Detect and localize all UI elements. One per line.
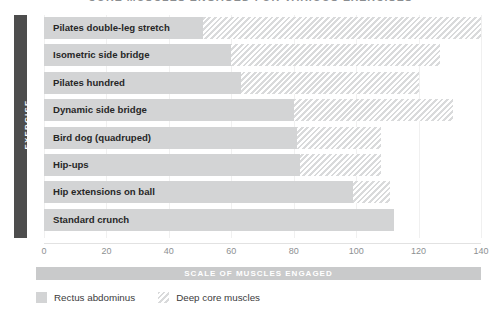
bar-row[interactable]: Standard crunch (44, 209, 481, 231)
bar-category-label: Bird dog (quadruped) (53, 127, 151, 149)
core-muscles-bar-chart: CORE MUSCLES ENGAGED FOR VARIOUS EXERCIS… (0, 0, 501, 322)
bar-category-label: Hip-ups (53, 154, 89, 176)
y-axis-label-band: EXERCISE (14, 15, 27, 238)
x-tick-label: 40 (164, 246, 174, 256)
bar-category-label: Hip extensions on ball (53, 181, 155, 203)
bar-category-label: Pilates double-leg stretch (53, 17, 170, 39)
bar-category-label: Isometric side bridge (53, 44, 150, 66)
plot-area: Pilates double-leg stretchIsometric side… (44, 15, 481, 238)
x-tick-label: 80 (289, 246, 299, 256)
bar-category-label: Dynamic side bridge (53, 99, 147, 121)
x-axis-title: SCALE OF MUSCLES ENGAGED (36, 267, 481, 280)
chart-title: CORE MUSCLES ENGAGED FOR VARIOUS EXERCIS… (0, 0, 501, 3)
bar-row[interactable]: Bird dog (quadruped) (44, 127, 481, 149)
bar-row[interactable]: Hip extensions on ball (44, 181, 481, 203)
bar-row[interactable]: Hip-ups (44, 154, 481, 176)
bar-row[interactable]: Pilates double-leg stretch (44, 17, 481, 39)
x-tick-label: 20 (101, 246, 111, 256)
x-axis-line (44, 243, 481, 244)
bar-category-label: Standard crunch (53, 209, 129, 231)
y-axis-label: EXERCISE (23, 13, 32, 237)
x-tick-label: 120 (411, 246, 426, 256)
gridline (481, 15, 482, 238)
solid-swatch-icon (36, 292, 47, 303)
legend-item-deep-core-muscles[interactable]: Deep core muscles (158, 292, 260, 303)
legend-item-rectus-abdominus[interactable]: Rectus abdominus (36, 292, 135, 303)
bar-row[interactable]: Isometric side bridge (44, 44, 481, 66)
bar-row[interactable]: Dynamic side bridge (44, 99, 481, 121)
x-tick-label: 60 (226, 246, 236, 256)
hatched-swatch-icon (158, 292, 169, 303)
chart-legend: Rectus abdominus Deep core muscles (36, 292, 260, 303)
x-tick-label: 0 (41, 246, 46, 256)
legend-label: Deep core muscles (176, 292, 260, 303)
x-tick-label: 140 (473, 246, 488, 256)
x-tick-label: 100 (349, 246, 364, 256)
bar-row[interactable]: Pilates hundred (44, 72, 481, 94)
legend-label: Rectus abdominus (54, 292, 135, 303)
bar-category-label: Pilates hundred (53, 72, 125, 94)
